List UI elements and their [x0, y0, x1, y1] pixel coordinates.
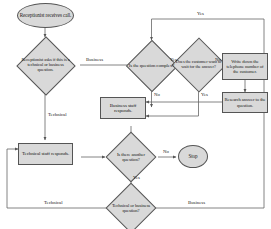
node-another-question[interactable]: Is there another question?	[102, 132, 160, 182]
flowchart-canvas: Receptionist receives call. Receptionist…	[0, 0, 271, 229]
node-technical-staff-responds[interactable]: Technical staff responds.	[18, 143, 73, 165]
edge-label-triage-technical: Technical	[48, 113, 67, 118]
edge-label-loop-business: Business	[188, 201, 205, 206]
edge-label-complex-no: No	[154, 93, 160, 98]
node-customer-wait[interactable]: Does the customer want to wait for the a…	[168, 38, 229, 92]
node-triage[interactable]: Receptionist asks if this is a technical…	[10, 37, 81, 94]
node-start-label: Receptionist receives call.	[18, 13, 73, 19]
node-technical-or-business-label: Technical or business question?	[101, 203, 161, 213]
node-write-telephone-number-label: Write down the telephone number of the c…	[223, 59, 267, 74]
node-stop[interactable]: Stop	[178, 145, 208, 168]
edge-label-wait-yes: Yes	[201, 93, 208, 98]
edge-label-another-no: No	[163, 150, 169, 155]
node-business-staff-responds[interactable]: Business staff responds.	[100, 97, 146, 119]
node-technical-staff-responds-label: Technical staff responds.	[19, 151, 72, 156]
node-research-answer-label: Research answer to the question.	[223, 97, 267, 107]
node-triage-label: Receptionist asks if this is a technical…	[10, 58, 81, 73]
edge-label-loop-technical: Technical	[44, 201, 63, 206]
node-another-question-label: Is there another question?	[102, 152, 160, 162]
node-business-staff-responds-label: Business staff responds.	[101, 103, 145, 114]
node-start[interactable]: Receptionist receives call.	[17, 3, 74, 28]
edge-label-another-yes: Yes	[133, 176, 140, 181]
edge-label-triage-business: Business	[86, 58, 103, 63]
node-customer-wait-label: Does the customer want to wait for the a…	[168, 60, 229, 70]
node-technical-or-business[interactable]: Technical or business question?	[101, 183, 161, 229]
node-stop-label: Stop	[179, 154, 207, 160]
node-research-answer[interactable]: Research answer to the question.	[222, 92, 268, 113]
edge-label-research-yes: Yes	[197, 12, 204, 17]
